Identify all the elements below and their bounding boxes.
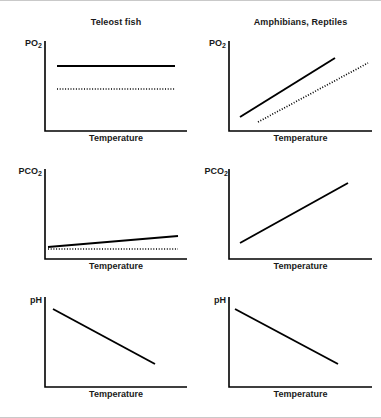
column-title-amphibians-reptiles: Amphibians, Reptiles — [228, 17, 373, 27]
panel-pco2-teleost: PCO2 Temperature — [0, 161, 190, 273]
x-axis-label-po2-amphibians-reptiles: Temperature — [229, 133, 372, 143]
plot-area-ph-teleost — [0, 289, 190, 401]
x-axis-label-pco2-teleost: Temperature — [45, 261, 187, 271]
panel-ph-teleost: pH Temperature — [0, 289, 190, 401]
series-solid-pco2-teleost — [48, 236, 178, 247]
series-solid-ph-teleost — [53, 309, 155, 364]
x-axis-label-pco2-amphibians-reptiles: Temperature — [229, 261, 372, 271]
plot-area-po2-amphibians-reptiles — [190, 33, 381, 145]
axis-lines — [45, 41, 187, 131]
plot-area-ph-amphibians-reptiles — [190, 289, 381, 401]
series-solid-ph-amphibians-reptiles — [235, 309, 338, 364]
x-axis-label-ph-amphibians-reptiles: Temperature — [229, 389, 372, 399]
plot-area-pco2-amphibians-reptiles — [190, 161, 381, 273]
series-solid-pco2-amphibians-reptiles — [240, 183, 348, 243]
series-solid-po2-amphibians-reptiles — [240, 58, 335, 117]
column-title-teleost-fish: Teleost fish — [44, 17, 188, 27]
panel-ph-amphibians-reptiles: pH Temperature — [190, 289, 381, 401]
axis-lines — [229, 169, 372, 259]
plot-area-po2-teleost — [0, 33, 190, 145]
figure-container: Teleost fish Amphibians, Reptiles PO2 Te… — [0, 0, 381, 418]
plot-area-pco2-teleost — [0, 161, 190, 273]
panel-pco2-amphibians-reptiles: PCO2 Temperature — [190, 161, 381, 273]
panel-po2-teleost: PO2 Temperature — [0, 33, 190, 145]
axis-lines — [229, 41, 372, 131]
x-axis-label-po2-teleost: Temperature — [45, 133, 187, 143]
x-axis-label-ph-teleost: Temperature — [45, 389, 187, 399]
panel-po2-amphibians-reptiles: PO2 Temperature — [190, 33, 381, 145]
axis-lines — [229, 297, 372, 387]
